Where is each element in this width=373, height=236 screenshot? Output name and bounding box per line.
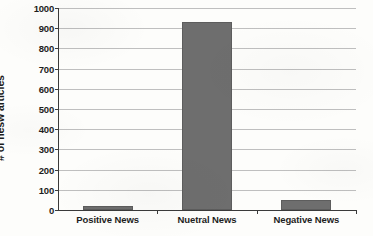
bar-chart: # of nesw articles 100090080070060050040… [0, 0, 373, 236]
y-tick-label: 1000 [24, 3, 54, 14]
y-tick-label: 600 [24, 83, 54, 94]
y-tick-mark [55, 210, 59, 211]
bars-group [58, 8, 356, 210]
y-tick-label: 500 [24, 104, 54, 115]
y-axis-tick-labels: 10009008007006005004003002001000 [24, 8, 54, 210]
x-tick-label: Nuetral News [178, 214, 237, 225]
plot-area [58, 8, 356, 210]
y-axis-title: # of nesw articles [0, 0, 26, 236]
x-tick-label: Positive News [76, 214, 139, 225]
x-axis-tick-labels: Positive NewsNuetral NewsNegative News [58, 214, 356, 230]
x-tick-label: Negative News [273, 214, 339, 225]
y-tick-label: 200 [24, 164, 54, 175]
y-tick-label: 400 [24, 124, 54, 135]
x-tick-mark [356, 210, 357, 214]
y-tick-label: 100 [24, 184, 54, 195]
y-tick-label: 900 [24, 23, 54, 34]
bar-nuetral-news[interactable] [182, 22, 232, 210]
gridline [58, 210, 356, 211]
bar-positive-news[interactable] [83, 206, 133, 210]
y-tick-label: 300 [24, 144, 54, 155]
y-tick-label: 700 [24, 63, 54, 74]
y-tick-label: 800 [24, 43, 54, 54]
bar-negative-news[interactable] [281, 200, 331, 210]
y-tick-label: 0 [24, 205, 54, 216]
